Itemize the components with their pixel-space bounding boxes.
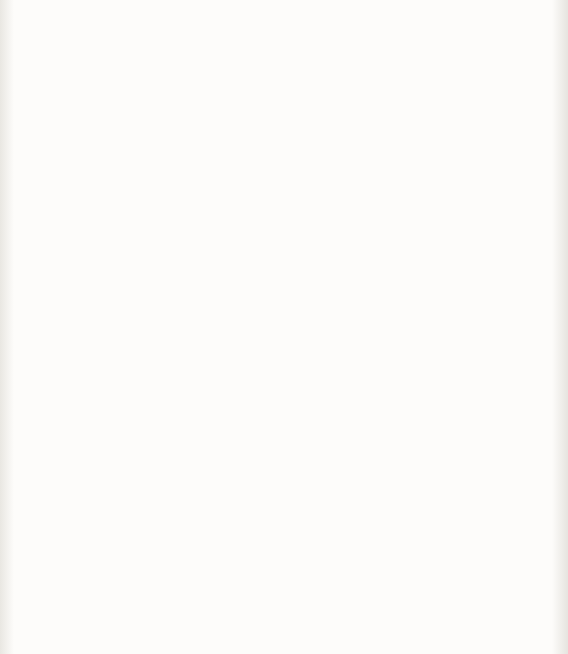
y-tick-label: 20 000 xyxy=(68,408,112,425)
y-tick-label: 10 000 xyxy=(68,485,112,502)
eq1-equals: = xyxy=(190,110,199,127)
scatter-points-layer xyxy=(166,158,487,486)
eq1-times-3: × xyxy=(322,110,331,127)
eq1-Fc-den: 60 xyxy=(410,122,426,139)
data-point xyxy=(370,264,381,274)
data-point xyxy=(257,306,268,316)
eq2-gamma-den: 23 xyxy=(277,533,293,550)
y-tick-label: 60 000 xyxy=(68,101,112,118)
eq1-fc-exponent-den: 3 xyxy=(447,108,452,119)
eq2-coefficient: 21 000 xyxy=(204,521,248,538)
x-tick-label: 40 xyxy=(292,581,309,600)
data-point xyxy=(400,353,412,365)
y-axis-title-symbol: E xyxy=(20,338,37,349)
eq2-times-2: × xyxy=(322,521,331,538)
data-point xyxy=(378,241,389,251)
annotation-lower-formula: E = 21 000 × ( γ 23 ) 1.5 × N σ B 20 [γ xyxy=(128,458,443,553)
x-tick-label: 60 xyxy=(384,581,401,600)
eq1-fc-exponent-num: 1 xyxy=(447,95,452,106)
upper-formula-expression: E = 33 500 × k 1 × k 2 × ( γ 24 ) 2 × ( xyxy=(175,95,455,139)
x-tick-label: 0 xyxy=(114,581,123,600)
y-tick-label: 70 000 xyxy=(68,25,112,42)
data-point xyxy=(217,402,227,412)
data-point xyxy=(460,244,471,254)
eq1-paren-close-1: ) xyxy=(362,103,371,133)
data-point xyxy=(390,253,401,263)
eq1-times-4: × xyxy=(383,110,392,127)
data-point xyxy=(349,265,360,275)
y-axis-title: ヤング係数 E (N/mm²) xyxy=(20,264,38,440)
x-tick-label: 20 xyxy=(201,581,218,600)
data-point xyxy=(440,310,450,320)
data-point xyxy=(173,439,183,449)
data-point xyxy=(434,381,446,393)
data-point xyxy=(472,235,483,245)
data-point xyxy=(437,231,448,241)
annotation-upper-formula: E = 33 500 × k 1 × k 2 × ( γ 24 ) 2 × ( xyxy=(170,95,556,296)
y-axis-title-jp: ヤング係数 xyxy=(20,365,38,440)
eq1-gamma-exponent: 2 xyxy=(374,101,379,112)
x-axis-ticks xyxy=(118,557,483,570)
data-point xyxy=(388,195,396,203)
data-point xyxy=(474,166,482,174)
eq1-gamma-den: 24 xyxy=(343,122,359,139)
eq2-condition: [γ =23] xyxy=(396,524,443,542)
data-point xyxy=(445,223,456,233)
data-point xyxy=(368,406,380,418)
data-point xyxy=(249,439,259,449)
data-point xyxy=(282,443,293,453)
x-axis-title-symbol: F xyxy=(285,615,296,632)
eq1-Fc: F xyxy=(410,102,421,119)
eq1-times-1: × xyxy=(256,110,265,127)
eq2-gamma-num: γ xyxy=(281,513,288,531)
eq1-k2-sub: 2 xyxy=(314,118,320,130)
y-tick-label: 50 000 xyxy=(68,178,112,195)
eq2-root-index: N xyxy=(338,533,346,545)
data-point xyxy=(211,470,223,482)
data-point xyxy=(453,177,461,185)
eq2-gamma-exponent: 1.5 xyxy=(308,511,321,522)
scatter-chart-svg: 70 000 60 000 50 000 40 000 30 000 20 00… xyxy=(0,0,568,654)
eq1-condition: k₁=k₂=1, γ=24 xyxy=(176,139,269,157)
y-tick-label: 30 000 xyxy=(68,332,112,349)
eq1-gamma-num: γ xyxy=(347,102,354,120)
eq1-condition-bracket-open: [ xyxy=(170,139,175,156)
eq1-Fc-sub: c xyxy=(421,109,426,121)
eq2-paren-close: ) xyxy=(296,514,305,544)
eq1-E: E xyxy=(175,110,186,127)
data-point xyxy=(464,219,475,229)
data-point xyxy=(274,314,285,324)
x-tick-label: 80 xyxy=(475,581,492,600)
eq1-k1: k xyxy=(272,110,280,127)
x-axis-tick-labels: 0 20 40 60 80 xyxy=(114,581,492,600)
eq1-times-2: × xyxy=(289,110,298,127)
data-point xyxy=(423,174,431,182)
eq1-condition-bracket-close: ] xyxy=(300,139,305,156)
eq1-coefficient: 33 500 xyxy=(205,110,249,127)
x-axis-title-jp: 圧縮強度 xyxy=(215,615,275,633)
upper-formula-condition: k₁=k₂=1, γ=24 [ ] xyxy=(170,139,305,157)
eq2-sigma: σ xyxy=(365,516,374,533)
data-point xyxy=(461,158,469,166)
data-point xyxy=(166,420,176,430)
x-axis-title: 圧縮強度 F c (N/mm²) xyxy=(215,615,356,635)
y-tick-label: 40 000 xyxy=(68,255,112,272)
data-point xyxy=(194,380,204,390)
eq1-paren-open-2: ( xyxy=(399,103,408,133)
eq2-times-1: × xyxy=(254,521,263,538)
eq1-k1-sub: 1 xyxy=(281,118,287,130)
data-point xyxy=(285,395,296,405)
arrowhead-icon xyxy=(483,284,497,296)
data-point xyxy=(413,187,421,195)
eq2-E: E xyxy=(174,521,186,538)
data-point xyxy=(452,246,463,256)
data-point xyxy=(185,477,195,487)
eq2-root-den: 20 xyxy=(365,536,381,553)
data-point xyxy=(338,264,349,274)
x-axis-title-unit: (N/mm²) xyxy=(303,616,356,633)
eq2-equals: = xyxy=(189,521,198,538)
data-point xyxy=(327,380,339,392)
y-axis-title-unit: (N/mm²) xyxy=(21,264,38,317)
x-axis-title-symbol-sub: c xyxy=(296,623,301,635)
data-point xyxy=(435,174,443,182)
